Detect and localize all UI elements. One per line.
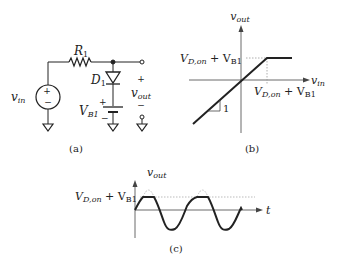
- transfer-plot-b: 1 vout vin VD,on + VB1 VD,on + VB1 (b): [180, 10, 325, 154]
- output-terminal-bottom: [140, 115, 144, 119]
- svg-text:−: −: [44, 97, 52, 107]
- svg-text:−: −: [137, 100, 145, 110]
- svg-text:t: t: [266, 204, 271, 217]
- svg-text:+: +: [99, 97, 107, 107]
- caption-b: (b): [245, 143, 259, 154]
- svg-text:R1: R1: [73, 44, 88, 59]
- svg-text:−: −: [101, 113, 109, 123]
- svg-text:vout: vout: [230, 10, 250, 24]
- resistor-icon: [69, 58, 91, 66]
- ground-icon: [108, 124, 118, 131]
- circuit-a-labels: + − vin R1 D1 + VB1 − + vout − (a): [11, 44, 152, 154]
- svg-text:+: +: [137, 74, 145, 84]
- svg-text:vin: vin: [11, 90, 26, 105]
- ground-icon: [43, 124, 53, 131]
- caption-c: (c): [169, 243, 183, 254]
- ground-icon: [137, 124, 147, 131]
- svg-text:vin: vin: [311, 74, 325, 88]
- svg-text:VB1: VB1: [79, 104, 99, 119]
- clipped-waveform: [135, 197, 242, 230]
- svg-text:vout: vout: [147, 166, 167, 180]
- diagram-canvas: + − vin R1 D1 + VB1 − + vout − (a) 1 vou…: [0, 0, 338, 267]
- svg-text:VD,on + VB1: VD,on + VB1: [180, 52, 242, 66]
- caption-a: (a): [69, 143, 83, 154]
- svg-text:1: 1: [223, 103, 229, 114]
- svg-text:+: +: [43, 86, 51, 96]
- svg-text:VD,on + VB1: VD,on + VB1: [75, 190, 137, 204]
- svg-text:VD,on + VB1: VD,on + VB1: [254, 85, 316, 99]
- svg-text:vout: vout: [131, 86, 152, 101]
- output-terminal-top: [140, 60, 144, 64]
- diode-icon: [106, 72, 120, 83]
- waveform-plot-c: vout t VD,on + VB1 (c): [75, 166, 271, 254]
- svg-text:D1: D1: [90, 73, 106, 88]
